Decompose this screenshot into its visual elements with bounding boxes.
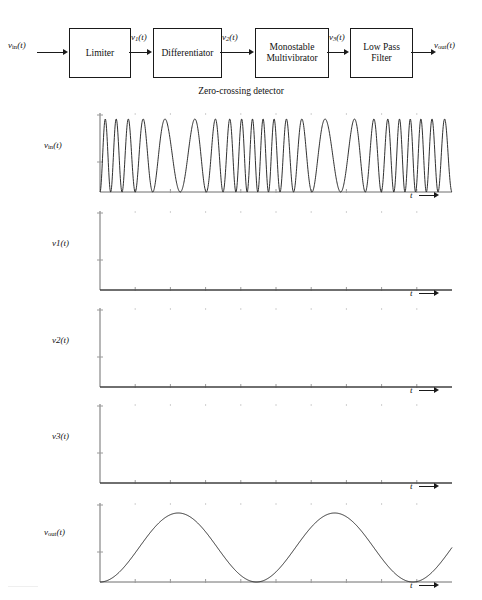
axis-label-v_out_panel: vout(t): [44, 527, 65, 537]
axis-label-t-v3_panel: t: [410, 481, 413, 491]
figure-root: LimiterDifferentiatorMonostableMultivibr…: [0, 0, 482, 600]
wire-2: [220, 52, 250, 53]
wire-arrowhead-0: [63, 49, 68, 55]
block-label: Low PassFilter: [363, 42, 400, 63]
v_in_panel: vin(t)t: [0, 105, 482, 200]
block-differentiator: Differentiator: [153, 28, 222, 78]
axis-arrow-t-v_in_panel: [419, 195, 435, 196]
axis-arrowhead-t-v_out_panel: [434, 582, 439, 588]
axis-label-t-v_out_panel: t: [410, 580, 413, 590]
block-diagram: LimiterDifferentiatorMonostableMultivibr…: [0, 0, 482, 95]
wire-4: [411, 52, 432, 53]
trace-fm_carrier: [100, 119, 452, 192]
signal-label-v_in: vin(t): [8, 40, 26, 50]
figure-caption: Zero-crossing detector: [0, 86, 482, 96]
wire-3: [327, 52, 345, 53]
axis-arrow-t-v3_panel: [419, 486, 435, 487]
axis-arrowhead-t-v1_panel: [434, 290, 439, 296]
axis-label-v1_panel: v1(t): [52, 238, 69, 248]
signal-label-v3: v3(t): [329, 32, 345, 42]
axis-label-t-v2_panel: t: [410, 385, 413, 395]
signal-label-v_out: vout(t): [434, 40, 455, 50]
trace-recovered_sine: [100, 513, 452, 582]
block-label: MonostableMultivibrator: [266, 42, 317, 63]
plot-v2_panel: [0, 300, 482, 395]
axis-arrow-t-v_out_panel: [419, 585, 435, 586]
v3_panel: v3(t)t: [0, 396, 482, 491]
page-corner-mark: [8, 586, 38, 587]
axis-arrow-t-v2_panel: [419, 390, 435, 391]
axis-arrowhead-t-v2_panel: [434, 387, 439, 393]
v_out_panel: vout(t)t: [0, 495, 482, 590]
v2_panel: v2(t)t: [0, 300, 482, 395]
block-monostable: MonostableMultivibrator: [255, 28, 329, 78]
plot-v_in_panel: [0, 105, 482, 200]
wire-0: [37, 52, 64, 53]
plot-v_out_panel: [0, 495, 482, 590]
block-limiter: Limiter: [69, 28, 131, 78]
axis-label-t-v1_panel: t: [410, 288, 413, 298]
block-lowpass: Low PassFilter: [350, 28, 413, 78]
axis-label-v_in_panel: vin(t): [44, 140, 62, 150]
plot-v1_panel: [0, 203, 482, 298]
wire-arrowhead-1: [147, 49, 152, 55]
axis-arrow-t-v1_panel: [419, 293, 435, 294]
wire-1: [129, 52, 148, 53]
axis-arrowhead-t-v3_panel: [434, 483, 439, 489]
axis-label-t-v_in_panel: t: [410, 190, 413, 200]
v1_panel: v1(t)t: [0, 203, 482, 298]
axis-label-v3_panel: v3(t): [52, 431, 69, 441]
block-label: Limiter: [86, 48, 115, 59]
signal-label-v2: v2(t): [222, 32, 238, 42]
wire-arrowhead-2: [249, 49, 254, 55]
wire-arrowhead-3: [344, 49, 349, 55]
plot-v3_panel: [0, 396, 482, 491]
signal-label-v1: v1(t): [131, 32, 147, 42]
wire-arrowhead-4: [431, 49, 436, 55]
block-label: Differentiator: [161, 48, 213, 59]
axis-arrowhead-t-v_in_panel: [434, 192, 439, 198]
axis-label-v2_panel: v2(t): [52, 335, 69, 345]
